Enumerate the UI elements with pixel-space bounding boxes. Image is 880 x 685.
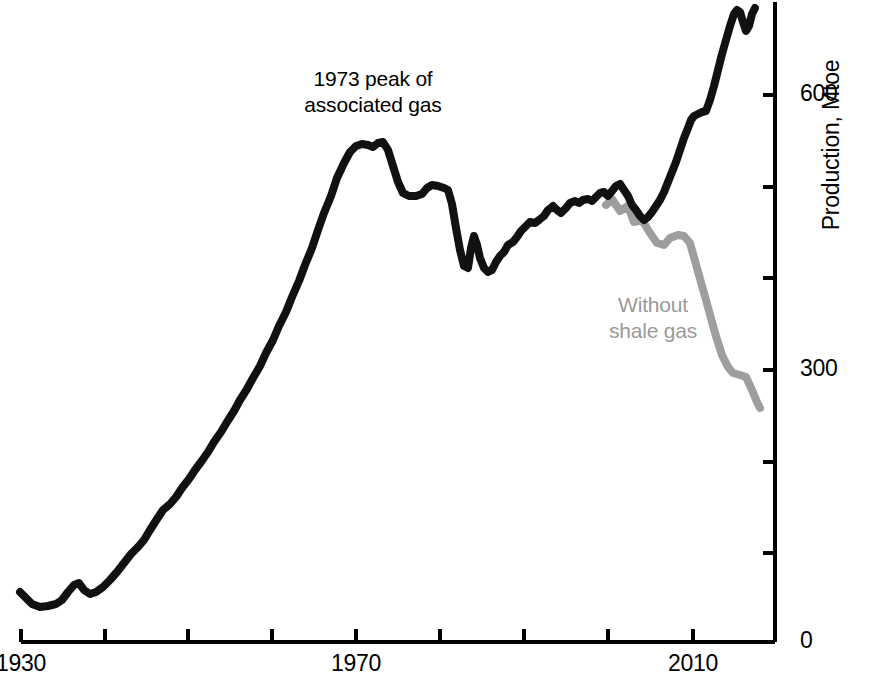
x-tick-label-1970: 1970 bbox=[311, 650, 401, 677]
y-axis-title: Production, Mtoe bbox=[818, 20, 845, 270]
chart-container: 600 300 0 1930 1970 2010 1973 peak of as… bbox=[0, 0, 880, 685]
y-tick-label-0: 0 bbox=[800, 627, 813, 654]
y-tick-label-300: 300 bbox=[800, 355, 837, 382]
without-shale-gas-annotation-label: Without shale gas bbox=[588, 292, 718, 344]
peak-annotation-label: 1973 peak of associated gas bbox=[268, 66, 478, 118]
x-tick-label-1930: 1930 bbox=[0, 650, 66, 677]
x-tick-label-2010: 2010 bbox=[648, 650, 738, 677]
